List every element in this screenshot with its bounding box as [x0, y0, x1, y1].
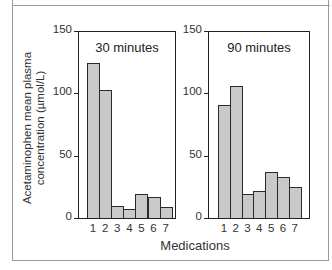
x-tick-label: 6 — [148, 222, 160, 234]
panel-title-30-minutes: 30 minutes — [79, 40, 175, 55]
y-tick — [74, 31, 79, 32]
y-axis-label-line2: concentration (µmol/L) — [34, 18, 47, 238]
y-tick-label: 100 — [176, 85, 202, 97]
y-tick-label: 0 — [176, 210, 202, 222]
x-axis-label: Medications — [150, 238, 240, 253]
x-tick-label: 2 — [99, 222, 111, 234]
x-tick-label: 4 — [253, 222, 265, 234]
y-tick-label: 150 — [46, 23, 72, 35]
y-tick — [204, 156, 209, 157]
x-tick-label: 3 — [111, 222, 123, 234]
y-tick — [204, 93, 209, 94]
plot-30-minutes: 30 minutes — [78, 31, 176, 219]
y-tick — [204, 218, 209, 219]
x-tick-label: 4 — [123, 222, 135, 234]
x-tick-label: 6 — [277, 222, 289, 234]
y-tick-label: 150 — [176, 23, 202, 35]
top-divider — [12, 5, 330, 6]
x-tick-label: 7 — [289, 222, 301, 234]
bar-medication-7 — [160, 207, 173, 218]
y-axis-label: Acetaminophen mean plasma concentration … — [21, 18, 47, 238]
y-tick — [74, 218, 79, 219]
x-tick-label: 2 — [230, 222, 242, 234]
y-tick — [204, 31, 209, 32]
y-tick — [74, 156, 79, 157]
panel-title-90-minutes: 90 minutes — [209, 40, 309, 55]
x-tick-label: 7 — [160, 222, 172, 234]
bar-medication-2 — [99, 90, 112, 218]
y-tick-label: 50 — [46, 148, 72, 160]
x-tick-label: 5 — [135, 222, 147, 234]
x-tick-label: 3 — [242, 222, 254, 234]
y-axis-label-line1: Acetaminophen mean plasma — [21, 18, 34, 238]
y-tick-label: 0 — [46, 210, 72, 222]
y-tick-label: 50 — [176, 148, 202, 160]
y-tick — [74, 93, 79, 94]
x-tick-label: 5 — [265, 222, 277, 234]
plot-90-minutes: 90 minutes — [208, 31, 310, 219]
x-tick-label: 1 — [218, 222, 230, 234]
y-tick-label: 100 — [46, 85, 72, 97]
bar-medication-7 — [289, 187, 302, 218]
x-tick-label: 1 — [87, 222, 99, 234]
